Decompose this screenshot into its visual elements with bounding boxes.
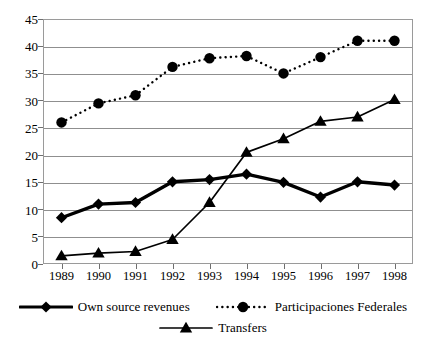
data-point-marker: [278, 68, 288, 78]
y-axis-tick-label: 35: [4, 67, 38, 80]
legend-marker: [238, 301, 248, 311]
data-point-marker: [93, 199, 104, 210]
x-axis-tick-mark: [173, 264, 174, 269]
data-point-marker: [56, 212, 67, 223]
data-point-marker: [93, 98, 103, 108]
legend-swatch-triangle: [159, 321, 213, 335]
y-axis-tick-label: 45: [4, 13, 38, 26]
series-layer: [43, 19, 413, 264]
data-point-marker: [204, 174, 215, 185]
y-axis-tick-label: 5: [4, 230, 38, 243]
legend-row: Own source revenuesParticipaciones Feder…: [0, 296, 426, 317]
series-line: [62, 41, 395, 123]
data-point-marker: [204, 53, 214, 63]
data-point-marker: [56, 117, 66, 127]
x-axis-tick-label: 1998: [373, 270, 417, 283]
legend-entry[interactable]: Participaciones Federales: [216, 299, 407, 315]
data-point-marker: [389, 36, 399, 46]
legend-entry[interactable]: Transfers: [159, 320, 267, 336]
data-point-marker: [352, 36, 362, 46]
y-axis-tick-mark: [38, 73, 43, 74]
y-axis: 051015202530354045: [0, 19, 38, 264]
x-axis-tick-mark: [284, 264, 285, 269]
legend-label: Transfers: [218, 320, 267, 336]
data-point-marker: [351, 111, 363, 122]
legend-label: Own source revenues: [78, 299, 190, 315]
series-line: [62, 174, 395, 218]
series-1: [56, 36, 399, 128]
x-axis-tick-mark: [395, 264, 396, 269]
y-axis-tick-label: 25: [4, 121, 38, 134]
data-point-marker: [315, 52, 325, 62]
data-point-marker: [315, 191, 326, 202]
y-axis-tick-label: 0: [4, 258, 38, 271]
legend-label: Participaciones Federales: [275, 299, 407, 315]
legend-row: Transfers: [0, 317, 426, 338]
y-axis-tick-label: 40: [4, 40, 38, 53]
x-axis-tick-mark: [321, 264, 322, 269]
data-point-marker: [130, 90, 140, 100]
data-point-marker: [277, 133, 289, 144]
y-axis-tick-mark: [38, 155, 43, 156]
y-axis-tick-label: 15: [4, 176, 38, 189]
x-axis-tick-mark: [62, 264, 63, 269]
legend-entry[interactable]: Own source revenues: [19, 299, 190, 315]
y-axis-tick-mark: [38, 264, 43, 265]
x-axis-tick-mark: [358, 264, 359, 269]
series-line: [62, 100, 395, 256]
series-2: [55, 93, 400, 260]
y-axis-tick-mark: [38, 236, 43, 237]
y-axis-tick-mark: [38, 182, 43, 183]
y-axis-tick-mark: [38, 127, 43, 128]
x-axis: 1989199019911992199319941995199619971998: [43, 270, 413, 290]
data-point-marker: [388, 93, 400, 104]
chart-legend: Own source revenuesParticipaciones Feder…: [0, 296, 426, 338]
legend-swatch-diamond: [19, 300, 73, 314]
x-axis-tick-mark: [99, 264, 100, 269]
x-axis-tick-mark: [247, 264, 248, 269]
data-point-marker: [278, 177, 289, 188]
legend-marker: [180, 321, 192, 332]
y-axis-tick-mark: [38, 209, 43, 210]
y-axis-tick-label: 20: [4, 149, 38, 162]
legend-swatch-circle: [216, 300, 270, 314]
legend-marker: [40, 301, 51, 312]
y-axis-tick-mark: [38, 19, 43, 20]
y-axis-tick-mark: [38, 46, 43, 47]
data-point-marker: [241, 169, 252, 180]
y-axis-tick-label: 30: [4, 94, 38, 107]
chart-figure: 051015202530354045 198919901991199219931…: [0, 0, 426, 340]
data-point-marker: [167, 62, 177, 72]
x-axis-tick-mark: [210, 264, 211, 269]
data-point-marker: [241, 51, 251, 61]
y-axis-tick-mark: [38, 100, 43, 101]
x-axis-tick-mark: [136, 264, 137, 269]
data-point-marker: [389, 179, 400, 190]
data-point-marker: [352, 176, 363, 187]
y-axis-tick-label: 10: [4, 203, 38, 216]
